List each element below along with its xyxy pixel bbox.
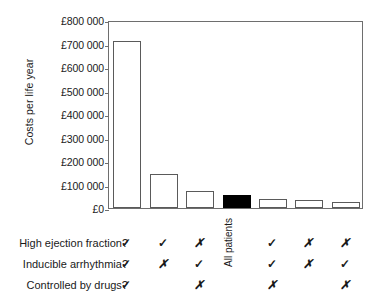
- cross-icon: ✗: [152, 254, 174, 274]
- bar-chart-figure: Costs per life year £800 000£700 000£600…: [0, 0, 372, 299]
- table-row: High ejection fraction?✓✓✗✓✗✗: [0, 233, 372, 253]
- y-axis-tick-labels: £800 000£700 000£600 000£500 000£400 000…: [26, 0, 104, 225]
- check-icon: ✓: [261, 254, 283, 274]
- criteria-table: All patients High ejection fraction?✓✓✗✓…: [0, 225, 372, 299]
- check-icon: ✓: [188, 254, 210, 274]
- bar: [150, 174, 178, 208]
- y-axis-tick-label: £200 000: [26, 157, 104, 167]
- bar: [113, 41, 141, 208]
- y-axis-tick-label: £700 000: [26, 40, 104, 50]
- y-axis-tick-label: £0: [26, 204, 104, 214]
- table-row-label: High ejection fraction?: [0, 233, 128, 253]
- cross-icon: ✗: [297, 233, 319, 253]
- bar: [259, 199, 287, 208]
- table-row: Controlled by drugs?✓✗✗✗: [0, 275, 372, 295]
- cross-icon: ✗: [188, 275, 210, 295]
- check-icon: ✓: [115, 254, 137, 274]
- y-axis-tick-label: £300 000: [26, 134, 104, 144]
- chart-plot-region: Costs per life year £800 000£700 000£600…: [0, 0, 372, 225]
- check-icon: ✓: [261, 233, 283, 253]
- plot-area: [108, 21, 363, 209]
- table-row-label: Inducible arrhythmia?: [0, 254, 128, 274]
- bar: [332, 202, 360, 208]
- bar-series: [109, 22, 362, 208]
- check-icon: ✓: [115, 275, 137, 295]
- cross-icon: ✗: [334, 233, 356, 253]
- y-axis-tick-label: £600 000: [26, 63, 104, 73]
- y-axis-tick-mark: [105, 210, 109, 211]
- check-icon: ✓: [334, 254, 356, 274]
- cross-icon: ✗: [188, 233, 210, 253]
- cross-icon: ✗: [297, 254, 319, 274]
- table-row: Inducible arrhythmia?✓✗✓✓✗✓: [0, 254, 372, 274]
- table-row-label: Controlled by drugs?: [0, 275, 128, 295]
- y-axis-tick-label: £400 000: [26, 110, 104, 120]
- bar: [223, 195, 251, 208]
- cross-icon: ✗: [334, 275, 356, 295]
- y-axis-tick-label: £100 000: [26, 181, 104, 191]
- check-icon: ✓: [115, 233, 137, 253]
- cross-icon: ✗: [261, 275, 283, 295]
- bar: [186, 191, 214, 208]
- y-axis-tick-label: £500 000: [26, 87, 104, 97]
- y-axis-tick-label: £800 000: [26, 16, 104, 26]
- check-icon: ✓: [152, 233, 174, 253]
- bar: [295, 200, 323, 208]
